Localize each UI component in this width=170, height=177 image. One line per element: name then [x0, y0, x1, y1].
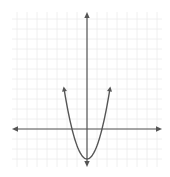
y-axis-down-arrow-icon	[84, 161, 89, 167]
axes	[12, 12, 162, 167]
x-axis-left-arrow-icon	[12, 126, 18, 131]
coordinate-plane	[0, 0, 170, 177]
y-axis-up-arrow-icon	[84, 12, 89, 18]
x-axis-right-arrow-icon	[156, 126, 162, 131]
